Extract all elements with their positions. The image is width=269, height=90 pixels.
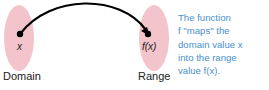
range-point bbox=[145, 31, 151, 37]
range-element-label: f(x) bbox=[142, 41, 156, 52]
caption-line: into the range bbox=[178, 51, 268, 64]
mapping-arrow bbox=[20, 3, 146, 34]
caption-line: The function bbox=[178, 11, 268, 24]
domain-point bbox=[17, 31, 23, 37]
domain-label: Domain bbox=[3, 70, 41, 82]
caption-text: The function f "maps" the domain value x… bbox=[178, 11, 268, 77]
caption-line: domain value x bbox=[178, 38, 268, 51]
range-set-ellipse bbox=[139, 5, 169, 71]
caption-line: value f(x). bbox=[178, 64, 268, 77]
domain-set-ellipse bbox=[4, 5, 34, 71]
range-label: Range bbox=[138, 70, 170, 82]
caption-line: f "maps" the bbox=[178, 24, 268, 37]
domain-element-label: x bbox=[17, 41, 22, 52]
